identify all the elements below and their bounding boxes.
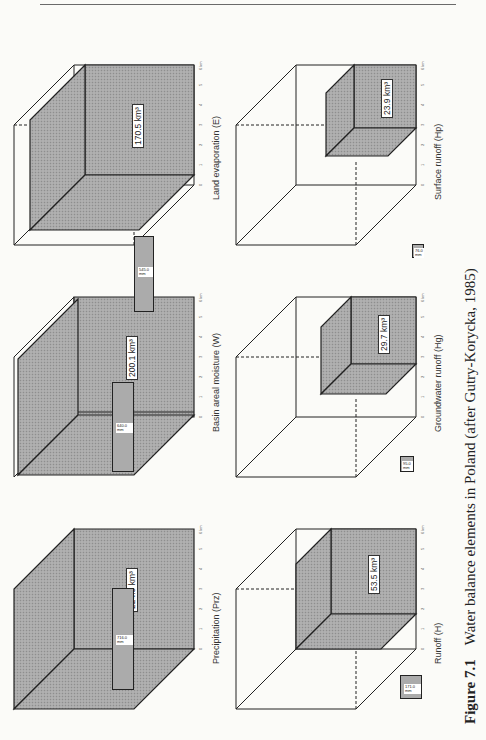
gauge-value: 76.0 mm <box>414 248 424 258</box>
svg-text:1: 1 <box>198 627 203 630</box>
svg-text:0: 0 <box>420 183 425 186</box>
svg-text:0: 0 <box>198 647 203 650</box>
svg-text:4: 4 <box>198 335 203 338</box>
volume-label: 53.5 km³ <box>368 555 380 594</box>
gauge-value: 545.0 mm <box>138 267 153 277</box>
svg-text:0: 0 <box>420 415 425 418</box>
figure-caption-text: Water balance elements in Poland (after … <box>462 268 478 645</box>
svg-text:1: 1 <box>420 395 425 398</box>
svg-text:3: 3 <box>198 587 203 590</box>
svg-text:1: 1 <box>198 395 203 398</box>
gauge-land-evaporation-bar: 545.0 mm <box>134 236 154 312</box>
svg-text:2: 2 <box>198 375 203 378</box>
panel-title: Land evaporation (E) <box>211 116 221 200</box>
svg-text:2: 2 <box>420 607 425 610</box>
svg-text:0: 0 <box>198 415 203 418</box>
svg-text:5: 5 <box>420 547 425 550</box>
gauge-value: 171.0 mm <box>404 684 421 694</box>
volume-label: 29.7 km³ <box>378 315 390 354</box>
panel-title: Basin areal moisture (W) <box>211 333 221 432</box>
gauge-surface-runoff-bar: 76.0 mm <box>412 244 424 258</box>
svg-text:6 km: 6 km <box>420 293 425 302</box>
gauge-value: 95.0 mm <box>402 461 413 471</box>
panel-title: Surface runoff (Hp) <box>433 124 443 200</box>
svg-text:4: 4 <box>198 567 203 570</box>
svg-text:4: 4 <box>198 103 203 106</box>
svg-text:4: 4 <box>420 335 425 338</box>
svg-text:3: 3 <box>420 355 425 358</box>
svg-text:5: 5 <box>198 83 203 86</box>
gauge-basin-moisture-bar: 640.0 mm <box>112 382 134 472</box>
svg-text:2: 2 <box>198 607 203 610</box>
page-top-rule <box>40 4 456 5</box>
svg-text:6 km: 6 km <box>420 525 425 534</box>
volume-label: 23.9 km³ <box>381 79 393 118</box>
svg-text:3: 3 <box>198 355 203 358</box>
svg-text:2: 2 <box>420 143 425 146</box>
panel-title: Precipitation (Prz) <box>211 592 221 664</box>
svg-text:3: 3 <box>420 123 425 126</box>
svg-text:4: 4 <box>420 103 425 106</box>
cube-surface-runoff: 0123456 km <box>236 40 436 260</box>
svg-text:6 km: 6 km <box>420 61 425 70</box>
svg-text:6 km: 6 km <box>198 293 203 302</box>
svg-text:2: 2 <box>420 375 425 378</box>
svg-text:1: 1 <box>198 163 203 166</box>
panel-title: Groundwater runoff (Hg) <box>433 335 443 432</box>
svg-text:0: 0 <box>198 183 203 186</box>
panel-groundwater-runoff: 0123456 km 29.7 km³ Groundwater runoff (… <box>236 272 451 492</box>
volume-label: 170.5 km³ <box>132 104 144 148</box>
svg-text:1: 1 <box>420 163 425 166</box>
svg-text:5: 5 <box>198 547 203 550</box>
svg-text:3: 3 <box>198 123 203 126</box>
volume-label: 200.1 km³ <box>126 336 138 380</box>
gauge-runoff-bar: 171.0 mm <box>400 675 422 699</box>
panel-title: Runoff (H) <box>433 623 443 664</box>
figure-caption: Figure 7.1Water balance elements in Pola… <box>462 24 479 724</box>
gauge-value: 716.0 mm <box>116 635 133 645</box>
svg-text:3: 3 <box>420 587 425 590</box>
svg-text:5: 5 <box>420 315 425 318</box>
svg-text:1: 1 <box>420 627 425 630</box>
gauge-value: 640.0 mm <box>116 423 133 433</box>
svg-text:6 km: 6 km <box>198 525 203 534</box>
figure-number: Figure 7.1 <box>462 659 478 724</box>
svg-text:5: 5 <box>198 315 203 318</box>
figure-stage: 0123456 km 224.0 km³ Precipitation (Prz)… <box>14 24 484 724</box>
gauge-groundwater-bar: 95.0 mm <box>400 456 414 472</box>
panel-surface-runoff: 0123456 km 23.9 km³ Surface runoff (Hp) <box>236 40 451 260</box>
svg-text:6 km: 6 km <box>198 61 203 70</box>
panel-land-evaporation: 0123456 km 170.5 km³ Land evaporation (E… <box>14 40 229 260</box>
gauge-precipitation-bar: 716.0 mm <box>112 588 134 690</box>
cube-land-evaporation: 0123456 km <box>14 40 214 260</box>
svg-text:2: 2 <box>198 143 203 146</box>
svg-text:0: 0 <box>420 647 425 650</box>
svg-text:5: 5 <box>420 83 425 86</box>
svg-text:4: 4 <box>420 567 425 570</box>
